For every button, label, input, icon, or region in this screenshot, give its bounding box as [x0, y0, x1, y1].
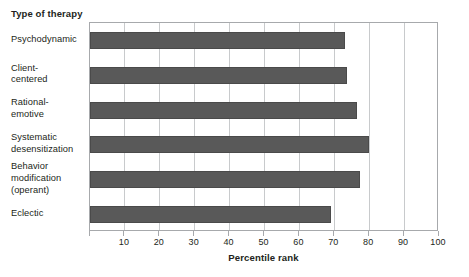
x-axis-tick: [298, 231, 299, 236]
x-axis-title-text: Percentile rank: [228, 252, 298, 263]
x-axis-tick: [403, 231, 404, 236]
category-label-line: centered: [11, 74, 83, 86]
plot-area: [89, 22, 438, 231]
category-label: Behaviormodification(operant): [0, 161, 83, 196]
category-label: Rational-emotive: [0, 97, 83, 120]
gridline: [404, 23, 405, 230]
x-axis-tick: [263, 231, 264, 236]
category-label-line: Client-: [11, 63, 83, 75]
gridline: [124, 23, 125, 230]
x-axis-tick: [158, 231, 159, 236]
bar: [90, 171, 360, 188]
y-axis-title-text: Type of therapy: [11, 8, 83, 19]
category-label-line: desensitization: [11, 144, 83, 156]
y-axis-title: Type of therapy: [11, 8, 91, 21]
x-axis-tick-label: 20: [146, 237, 172, 247]
bar: [90, 67, 347, 84]
bar: [90, 102, 357, 119]
x-axis-title: Percentile rank: [89, 252, 438, 263]
x-axis-tick-label: 100: [425, 237, 451, 247]
gridline: [299, 23, 300, 230]
category-label-column: PsychodynamicClient-centeredRational-emo…: [0, 22, 89, 231]
bar-chart-figure: Type of therapy PsychodynamicClient-cent…: [0, 0, 469, 277]
x-axis-tick: [193, 231, 194, 236]
category-label-line: Systematic: [11, 132, 83, 144]
category-label: Psychodynamic: [0, 34, 83, 46]
x-axis-tick: [368, 231, 369, 236]
x-axis-tick: [123, 231, 124, 236]
category-label-line: (operant): [11, 185, 83, 197]
x-axis-tick-label: 60: [285, 237, 311, 247]
x-axis-tick: [89, 231, 90, 236]
x-axis-tick: [438, 231, 439, 236]
gridline: [264, 23, 265, 230]
gridline: [369, 23, 370, 230]
bar: [90, 206, 331, 223]
x-axis-tick-label: 80: [355, 237, 381, 247]
category-label: Systematicdesensitization: [0, 132, 83, 155]
x-axis-tick-label: 40: [216, 237, 242, 247]
gridline: [334, 23, 335, 230]
category-label-line: emotive: [11, 109, 83, 121]
x-axis-tick-label: 70: [320, 237, 346, 247]
bar: [90, 136, 369, 153]
category-label: Client-centered: [0, 63, 83, 86]
x-axis-tick-label: 50: [251, 237, 277, 247]
category-label-line: Psychodynamic: [11, 34, 83, 46]
category-label: Eclectic: [0, 208, 83, 220]
x-axis-tick-label: 90: [390, 237, 416, 247]
gridline: [159, 23, 160, 230]
x-axis-tick-label: 30: [181, 237, 207, 247]
category-label-line: modification: [11, 173, 83, 185]
category-label-line: Eclectic: [11, 208, 83, 220]
x-axis-tick: [228, 231, 229, 236]
x-axis-tick: [333, 231, 334, 236]
category-label-line: Behavior: [11, 161, 83, 173]
gridline: [194, 23, 195, 230]
category-label-line: Rational-: [11, 97, 83, 109]
bar: [90, 32, 345, 49]
x-axis-tick-label: 10: [111, 237, 137, 247]
gridline: [229, 23, 230, 230]
